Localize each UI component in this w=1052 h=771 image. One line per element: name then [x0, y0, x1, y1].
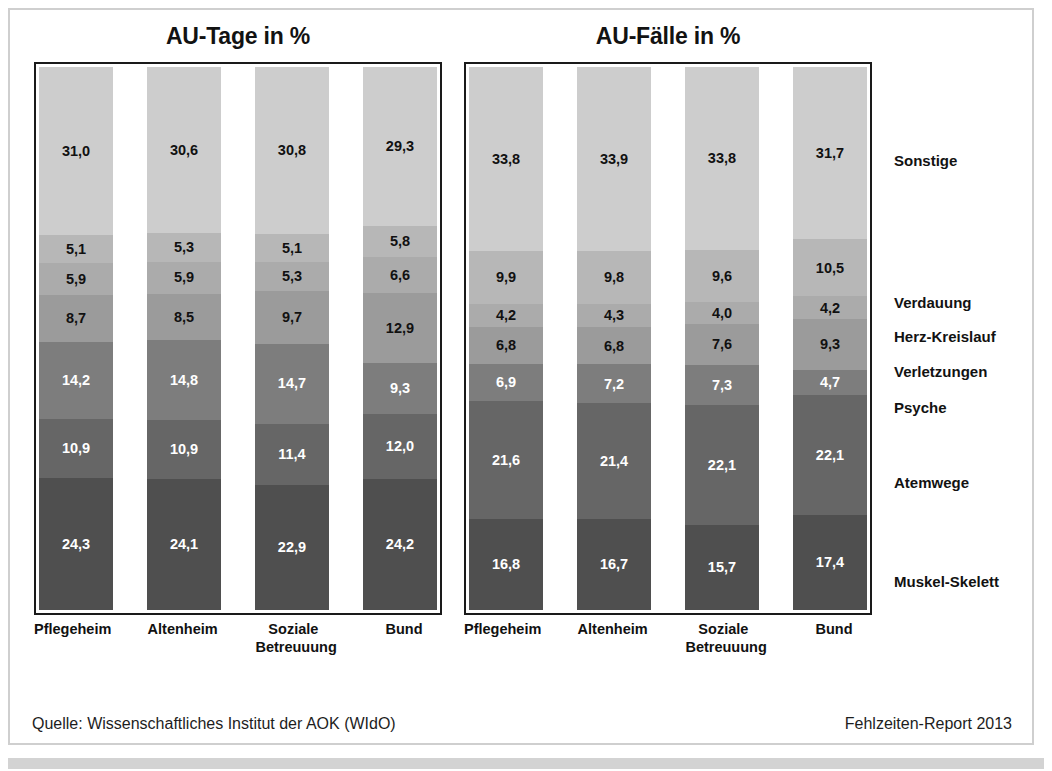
charts-row: AU-Tage in % 31,05,15,98,714,210,924,330…	[10, 10, 1032, 700]
bar-segment: 4,0	[685, 302, 759, 324]
panel-title-au-faelle: AU-Fälle in %	[456, 23, 880, 50]
segment-value-label: 31,0	[62, 144, 90, 159]
bar-segment: 6,9	[469, 364, 543, 401]
legend-item-sonstige: Sonstige	[894, 152, 957, 169]
segment-value-label: 14,7	[278, 376, 306, 391]
segment-value-label: 21,6	[492, 453, 520, 468]
bar-segment: 5,3	[255, 262, 329, 291]
x-axis-label: Altenheim	[575, 620, 651, 656]
bar-segment: 16,7	[577, 519, 651, 610]
bar-segment: 14,2	[39, 342, 113, 419]
segment-value-label: 22,1	[816, 448, 844, 463]
segment-value-label: 8,7	[66, 311, 86, 326]
bar-segment: 7,3	[685, 365, 759, 405]
segment-value-label: 29,3	[386, 139, 414, 154]
x-axis-label-line1: Pflegeheim	[464, 621, 541, 637]
stacked-bar: 30,65,35,98,514,810,924,1	[147, 67, 221, 610]
segment-value-label: 9,8	[604, 270, 624, 285]
bar-segment: 24,2	[363, 479, 437, 610]
bar-segment: 9,8	[577, 251, 651, 304]
segment-value-label: 33,8	[708, 151, 736, 166]
segment-value-label: 9,7	[282, 310, 302, 325]
bar-segment: 33,8	[685, 67, 759, 250]
bar-segment: 9,3	[793, 319, 867, 370]
bar-segment: 14,8	[147, 340, 221, 420]
bar-segment: 31,7	[793, 67, 867, 239]
stacked-bar: 33,89,64,07,67,322,115,7	[685, 67, 759, 610]
x-axis-label: SozialeBetreuuung	[255, 620, 331, 656]
bar-segment: 14,7	[255, 344, 329, 424]
segment-value-label: 4,7	[820, 375, 840, 390]
legend-item-psyche: Psyche	[894, 399, 947, 416]
stacked-bar: 33,89,94,26,86,921,616,8	[469, 67, 543, 610]
segment-value-label: 5,3	[282, 269, 302, 284]
segment-value-label: 5,1	[66, 242, 86, 257]
segment-value-label: 16,7	[600, 557, 628, 572]
legend-item-herz-kreislauf: Herz-Kreislauf	[894, 328, 996, 345]
bar-segment: 5,9	[147, 262, 221, 294]
stacked-bar: 31,05,15,98,714,210,924,3	[39, 67, 113, 610]
bar-segment: 12,9	[363, 293, 437, 363]
bar-segment: 6,6	[363, 257, 437, 293]
plot-area-au-faelle: 33,89,94,26,86,921,616,833,99,84,36,87,2…	[464, 62, 872, 615]
x-axis-label-line2: Betreuuung	[255, 638, 331, 656]
bar-segment: 30,8	[255, 67, 329, 234]
x-axis-label: Pflegeheim	[464, 620, 540, 656]
bar-segment: 4,2	[469, 304, 543, 327]
segment-value-label: 4,2	[496, 308, 516, 323]
segment-value-label: 9,9	[496, 270, 516, 285]
x-axis-labels-au-faelle: PflegeheimAltenheimSozialeBetreuuungBund	[464, 620, 872, 656]
panel-title-au-tage: AU-Tage in %	[26, 23, 450, 50]
x-axis-label-line1: Soziale	[268, 621, 318, 637]
segment-value-label: 4,2	[820, 301, 840, 316]
segment-value-label: 33,8	[492, 152, 520, 167]
stacked-bar: 33,99,84,36,87,221,416,7	[577, 67, 651, 610]
bar-segment: 4,3	[577, 304, 651, 327]
segment-value-label: 6,6	[390, 268, 410, 283]
x-axis-label: Altenheim	[145, 620, 221, 656]
legend-item-atemwege: Atemwege	[894, 474, 969, 491]
bar-segment: 4,2	[793, 296, 867, 319]
stacked-bars-au-tage: 31,05,15,98,714,210,924,330,65,35,98,514…	[39, 67, 437, 610]
segment-value-label: 30,8	[278, 143, 306, 158]
legend-item-verletzungen: Verletzungen	[894, 363, 987, 380]
bar-segment: 6,8	[577, 327, 651, 364]
bar-segment: 7,6	[685, 324, 759, 365]
bar-segment: 10,9	[39, 419, 113, 478]
segment-value-label: 6,9	[496, 375, 516, 390]
bar-segment: 21,4	[577, 403, 651, 519]
bar-segment: 8,5	[147, 294, 221, 340]
bar-segment: 11,4	[255, 424, 329, 486]
bar-segment: 31,0	[39, 67, 113, 235]
bar-segment: 15,7	[685, 525, 759, 610]
bar-segment: 30,6	[147, 67, 221, 233]
bar-segment: 22,9	[255, 485, 329, 609]
segment-value-label: 6,8	[496, 338, 516, 353]
bar-segment: 8,7	[39, 295, 113, 342]
stacked-bar: 30,85,15,39,714,711,422,9	[255, 67, 329, 610]
x-axis-label: Bund	[796, 620, 872, 656]
bar-segment: 17,4	[793, 515, 867, 610]
segment-value-label: 31,7	[816, 146, 844, 161]
segment-value-label: 4,0	[712, 306, 732, 321]
x-axis-label-line2: Betreuuung	[685, 638, 761, 656]
stacked-bar: 31,710,54,29,34,722,117,4	[793, 67, 867, 610]
bar-segment: 5,1	[255, 234, 329, 262]
segment-value-label: 12,0	[386, 439, 414, 454]
segment-value-label: 24,3	[62, 537, 90, 552]
segment-value-label: 14,2	[62, 373, 90, 388]
segment-value-label: 7,6	[712, 337, 732, 352]
bar-segment: 22,1	[793, 395, 867, 515]
bottom-decorative-band	[8, 758, 1044, 769]
segment-value-label: 10,5	[816, 261, 844, 276]
segment-value-label: 7,3	[712, 378, 732, 393]
bar-segment: 7,2	[577, 364, 651, 403]
segment-value-label: 10,9	[62, 441, 90, 456]
bar-segment: 33,8	[469, 67, 543, 251]
x-axis-label-line1: Pflegeheim	[34, 621, 111, 637]
stacked-bars-au-faelle: 33,89,94,26,86,921,616,833,99,84,36,87,2…	[469, 67, 867, 610]
segment-value-label: 16,8	[492, 557, 520, 572]
segment-value-label: 6,8	[604, 339, 624, 354]
bar-segment: 9,3	[363, 363, 437, 413]
segment-value-label: 5,9	[174, 270, 194, 285]
